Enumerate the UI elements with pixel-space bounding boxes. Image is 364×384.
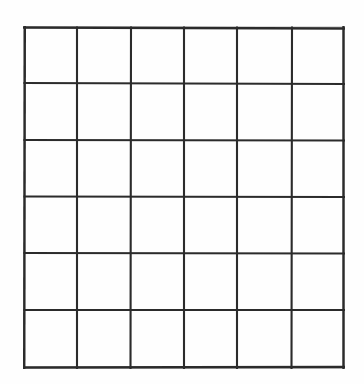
grid-cell-r3c2[interactable] xyxy=(77,141,131,196)
grid-cell-r5c1[interactable] xyxy=(25,254,77,310)
grid-cell-r2c4[interactable] xyxy=(184,84,237,140)
grid-cell-r5c6[interactable] xyxy=(292,254,343,310)
grid-line-left xyxy=(24,27,25,368)
grid-cell-r3c3[interactable] xyxy=(131,141,184,196)
grid-cell-r2c6[interactable] xyxy=(292,84,343,140)
grid-cell-r2c1[interactable] xyxy=(25,84,77,140)
grid-cell-r6c5[interactable] xyxy=(237,311,292,367)
grid-container xyxy=(23,26,345,369)
grid-cell-r4c4[interactable] xyxy=(184,197,237,253)
grid-cell-r1c5[interactable] xyxy=(237,28,292,83)
grid-cell-r1c4[interactable] xyxy=(184,28,237,83)
grid-cell-r1c2[interactable] xyxy=(77,28,131,83)
grid-cell-r4c3[interactable] xyxy=(131,197,184,253)
grid-cell-r1c1[interactable] xyxy=(25,28,77,83)
grid-cell-r4c2[interactable] xyxy=(77,197,131,253)
grid-cell-r3c5[interactable] xyxy=(237,141,292,196)
grid-cell-r1c3[interactable] xyxy=(131,28,184,83)
grid-cell-r6c1[interactable] xyxy=(25,311,77,367)
grid-cell-r4c1[interactable] xyxy=(25,197,77,253)
grid-cell-r6c4[interactable] xyxy=(184,311,237,367)
grid-cell-r2c2[interactable] xyxy=(77,84,131,140)
grid-cell-r1c6[interactable] xyxy=(292,28,343,83)
grid-cell-r5c2[interactable] xyxy=(77,254,131,310)
grid-table[interactable] xyxy=(23,26,345,369)
paper-sheet xyxy=(0,0,364,384)
grid-cell-r5c3[interactable] xyxy=(131,254,184,310)
grid-cell-r6c2[interactable] xyxy=(77,311,131,367)
grid-cell-r2c3[interactable] xyxy=(131,84,184,140)
grid-cell-r6c3[interactable] xyxy=(131,311,184,367)
page-root xyxy=(0,0,364,384)
grid-cell-r5c4[interactable] xyxy=(184,254,237,310)
grid-cells[interactable] xyxy=(25,28,343,367)
grid-cell-r3c4[interactable] xyxy=(184,141,237,196)
grid-cell-r5c5[interactable] xyxy=(237,254,292,310)
grid-cell-r4c5[interactable] xyxy=(237,197,292,253)
grid-cell-r4c6[interactable] xyxy=(292,197,343,253)
grid-cell-r6c6[interactable] xyxy=(292,311,343,367)
grid-cell-r2c5[interactable] xyxy=(237,84,292,140)
grid-cell-r3c1[interactable] xyxy=(25,141,77,196)
grid-cell-r3c6[interactable] xyxy=(292,141,343,196)
